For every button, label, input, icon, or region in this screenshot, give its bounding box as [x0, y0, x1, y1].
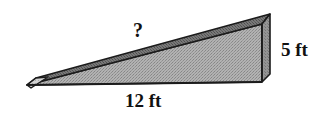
wedge-right-end-face — [262, 14, 270, 82]
height-label: 5 ft — [281, 40, 308, 59]
wedge-illustration — [0, 0, 324, 117]
figure-canvas: ? 5 ft 12 ft — [0, 0, 324, 117]
base-label: 12 ft — [125, 91, 161, 110]
hypotenuse-label: ? — [133, 20, 143, 40]
